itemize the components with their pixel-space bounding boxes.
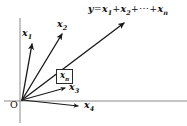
- boxed-vector-label-xn: xn: [56, 69, 73, 84]
- vector-sum-diagram: y=x1+x2+⋯+xn x1 x2 x3 x4 xn O: [0, 0, 187, 126]
- vector-label-x3-subscript: 3: [75, 87, 80, 95]
- vector-label-x4: x4: [84, 100, 94, 112]
- boxed-label-subscript: n: [65, 76, 69, 82]
- vector-label-x2: x2: [57, 19, 67, 31]
- vector-label-x4-subscript: 4: [90, 105, 95, 113]
- sum-expression-label: y=x1+x2+⋯+xn: [88, 4, 168, 16]
- vector-label-x1: x1: [22, 28, 32, 40]
- vector-label-x1-subscript: 1: [28, 33, 33, 41]
- sum-plus-2: +: [131, 3, 139, 14]
- sum-ellipsis: ⋯: [139, 3, 149, 14]
- origin-label: O: [10, 100, 18, 110]
- vector-label-x2-subscript: 2: [63, 24, 68, 32]
- sum-equals: =: [94, 3, 102, 14]
- sum-termn-subscript: n: [163, 9, 168, 17]
